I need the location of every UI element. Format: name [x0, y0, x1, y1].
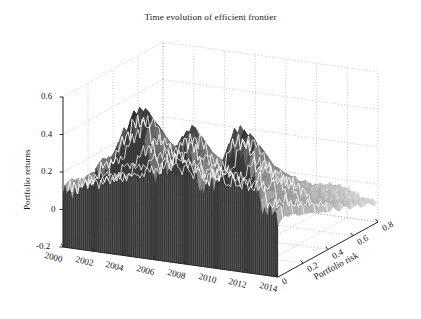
surface-skirt — [179, 149, 181, 264]
surface-skirt — [86, 184, 88, 251]
surface-skirt — [216, 181, 218, 269]
surface-skirt — [263, 208, 265, 275]
surface-skirt — [80, 185, 82, 249]
surface-skirt — [65, 185, 67, 247]
surface-skirt — [208, 185, 210, 268]
surface-skirt — [156, 172, 158, 260]
surface-skirt — [255, 176, 257, 274]
surface-skirt — [115, 148, 117, 255]
surface-skirt — [92, 185, 94, 251]
surface-skirt — [272, 212, 274, 277]
surface-skirt — [266, 214, 268, 276]
surface-skirt — [158, 166, 160, 261]
surface-skirt — [197, 175, 199, 266]
surface-skirt — [88, 183, 90, 250]
surface-skirt — [264, 208, 266, 275]
surface-skirt — [214, 182, 216, 268]
surface-skirt — [243, 154, 245, 272]
surface-skirt — [235, 152, 237, 271]
surface-skirt — [164, 162, 166, 262]
surface-skirt — [121, 145, 123, 256]
surface-skirt — [69, 189, 71, 248]
surface-skirt — [152, 172, 154, 259]
surface-skirt — [90, 183, 92, 251]
surface-skirt — [204, 177, 206, 267]
surface-skirt — [175, 153, 177, 263]
surface-skirt — [166, 168, 168, 261]
surface-skirt — [111, 158, 113, 254]
surface-skirt — [202, 189, 204, 267]
surface-skirt — [173, 153, 175, 262]
surface-skirt — [123, 145, 125, 256]
surface-skirt — [171, 162, 173, 263]
surface-skirt — [270, 203, 272, 276]
surface-skirt — [212, 179, 214, 268]
surface-skirt — [224, 162, 226, 270]
surface-skirt — [195, 166, 197, 265]
surface-skirt — [191, 154, 193, 265]
surface-skirt — [199, 189, 201, 267]
surface-skirt — [162, 162, 164, 261]
surface-skirt — [150, 165, 152, 259]
surface-skirt — [257, 189, 259, 274]
surface-skirt — [237, 152, 239, 271]
surface-skirt — [137, 133, 139, 258]
surface-skirt — [170, 164, 172, 262]
surface-skirt — [259, 189, 261, 274]
surface-skirt — [206, 177, 208, 267]
surface-skirt — [168, 164, 170, 262]
surface-skirt — [201, 189, 203, 267]
surface-skirt — [218, 180, 220, 269]
surface-skirt — [210, 179, 212, 268]
chart-figure: Time evolution of efficient frontier 0.6… — [0, 0, 421, 319]
z-axis-title: Portfolio returns — [22, 150, 32, 210]
surface-skirt — [274, 212, 276, 277]
surface-skirt — [139, 133, 141, 258]
surface-skirt — [77, 190, 79, 249]
surface-skirt — [82, 182, 84, 250]
surface-skirt — [131, 127, 133, 257]
surface-skirt — [226, 149, 228, 270]
surface-skirt — [133, 127, 135, 257]
surface-skirt — [113, 156, 115, 254]
surface-skirt — [160, 166, 162, 261]
surface-skirt — [84, 182, 86, 251]
surface-skirt — [119, 149, 121, 256]
surface-skirt — [251, 178, 253, 273]
surface-plot-canvas — [0, 0, 421, 319]
surface-skirt — [193, 166, 195, 265]
surface-skirt — [140, 139, 142, 258]
surface-skirt — [75, 188, 77, 249]
surface-skirt — [187, 157, 189, 265]
surface-skirt — [268, 203, 270, 276]
surface-skirt — [144, 142, 146, 259]
surface-skirt — [129, 135, 131, 256]
surface-skirt — [127, 135, 129, 256]
surface-skirt — [232, 148, 234, 271]
surface-skirt — [108, 172, 110, 254]
surface-skirt — [154, 177, 156, 260]
surface-skirt — [71, 192, 73, 249]
surface-skirt — [241, 154, 243, 272]
surface-skirt — [181, 150, 183, 264]
surface-skirt — [142, 139, 144, 258]
surface-skirt — [67, 189, 69, 248]
surface-skirt — [78, 185, 80, 249]
surface-skirt — [106, 169, 108, 253]
surface-skirt — [135, 140, 137, 257]
